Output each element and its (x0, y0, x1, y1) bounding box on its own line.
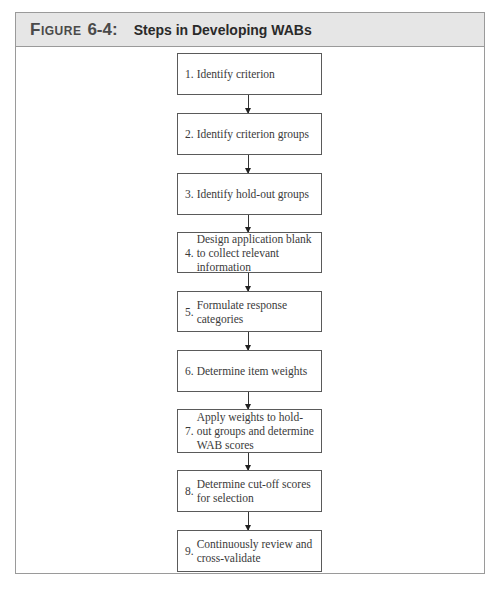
step-text: Determine cut-off scores for selection (197, 477, 315, 505)
figure-title: Steps in Developing WABs (134, 22, 312, 38)
step-box-7: 7. Apply weights to hold-out groups and … (177, 409, 322, 453)
step-number: 4. (185, 246, 194, 260)
step-text: Identify hold-out groups (197, 187, 315, 201)
step-text: Continuously review and cross-validate (197, 537, 315, 565)
step-text: Apply weights to hold-out groups and det… (197, 410, 315, 452)
flow-arrow (248, 332, 249, 350)
step-number: 8. (185, 484, 194, 498)
flow-arrow (248, 95, 249, 113)
step-box-5: 5. Formulate response categories (177, 291, 322, 332)
step-text: Identify criterion groups (197, 127, 315, 141)
step-text: Design application blank to collect rele… (197, 232, 315, 274)
step-number: 3. (185, 187, 194, 201)
step-number: 1. (185, 67, 194, 81)
flow-arrow (248, 155, 249, 173)
step-number: 2. (185, 127, 194, 141)
step-box-9: 9. Continuously review and cross-validat… (177, 530, 322, 572)
step-box-8: 8. Determine cut-off scores for selectio… (177, 470, 322, 512)
flow-arrow (248, 273, 249, 291)
flow-arrow (248, 453, 249, 470)
step-number: 6. (185, 364, 194, 378)
step-box-4: 4. Design application blank to collect r… (177, 232, 322, 273)
figure-number: 6-4: (87, 20, 117, 40)
flow-arrow (248, 392, 249, 409)
step-box-6: 6. Determine item weights (177, 350, 322, 392)
step-number: 7. (185, 424, 194, 438)
step-box-1: 1. Identify criterion (177, 53, 322, 95)
step-number: 9. (185, 544, 194, 558)
step-box-3: 3. Identify hold-out groups (177, 173, 322, 215)
step-text: Identify criterion (197, 67, 315, 81)
step-text: Determine item weights (197, 364, 315, 378)
figure-label: Figure (30, 20, 81, 40)
step-number: 5. (185, 305, 194, 319)
flow-arrow (248, 215, 249, 232)
flow-arrow (248, 512, 249, 530)
step-text: Formulate response categories (197, 298, 315, 326)
figure-header: Figure 6-4: Steps in Developing WABs (15, 12, 485, 47)
step-box-2: 2. Identify criterion groups (177, 113, 322, 155)
